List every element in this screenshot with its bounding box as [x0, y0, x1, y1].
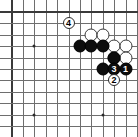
star-point-lower-left: [33, 113, 36, 116]
move-marker-2[interactable]: 2: [108, 74, 120, 86]
move-number-label: 3: [109, 64, 120, 75]
grid-line-horizontal: [0, 92, 138, 93]
star-point-upper-left: [33, 45, 36, 48]
grid-line-horizontal: [0, 35, 138, 36]
board-edge-line-top: [0, 11, 138, 13]
move-stone-1[interactable]: 1: [119, 63, 132, 76]
grid-line-horizontal: [0, 126, 138, 127]
grid-line-horizontal: [0, 103, 138, 104]
black-stone[interactable]: [96, 40, 109, 53]
star-point-lower-right: [101, 113, 104, 116]
grid-line-horizontal: [0, 115, 138, 116]
move-marker-4[interactable]: 4: [63, 17, 75, 29]
go-board: 1342: [0, 0, 138, 137]
move-number-label: 1: [120, 64, 131, 75]
